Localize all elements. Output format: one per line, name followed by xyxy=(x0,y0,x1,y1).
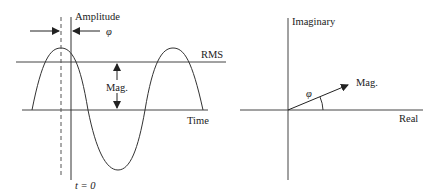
t-zero-label: t = 0 xyxy=(75,180,96,191)
phase-angle-arc xyxy=(320,97,323,110)
time-label: Time xyxy=(187,115,209,126)
phasor-phase-label: φ xyxy=(306,88,312,99)
rms-label: RMS xyxy=(201,49,223,60)
amplitude-label: Amplitude xyxy=(75,11,120,22)
diagram-canvas: Amplitude φ RMS Mag. Time t = 0 Imaginar… xyxy=(0,0,439,196)
waveform-diagram: Amplitude φ RMS Mag. Time t = 0 xyxy=(16,11,226,191)
phasor-vector xyxy=(288,85,348,110)
imaginary-label: Imaginary xyxy=(292,16,336,27)
phasor-magnitude-label: Mag. xyxy=(356,77,378,88)
phasor-diagram: Imaginary Real Mag. φ xyxy=(240,16,423,180)
magnitude-label: Mag. xyxy=(106,82,128,93)
real-label: Real xyxy=(399,113,418,124)
phase-label: φ xyxy=(106,26,112,37)
